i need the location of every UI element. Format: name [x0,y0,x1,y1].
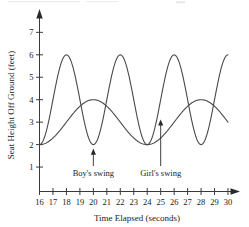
x-tick-label: 19 [76,197,85,207]
series-curves [40,55,229,145]
x-tick-label: 20 [89,197,98,207]
x-tick-label: 27 [183,197,192,207]
x-axis: 161718192021222324252627282930 [35,188,240,207]
x-tick-label: 18 [62,197,71,207]
x-tick-label: 26 [170,197,179,207]
x-axis-title: Time Elapsed (seconds) [94,213,180,223]
girls-swing-label: Girl's swing [140,168,182,178]
girls-swing-curve [40,100,229,145]
girls-swing-arrowhead [158,119,163,125]
y-tick-label: 3 [29,117,33,127]
x-tick-label: 17 [49,197,58,207]
x-axis-arrowhead [231,188,241,194]
y-axis-title: Seat Height Off Ground (feet) [6,51,16,159]
y-axis-arrowhead [36,9,42,19]
y-tick-label: 1 [29,162,33,172]
y-tick-label: 2 [29,140,33,150]
seat-height-line-chart: 1234567 161718192021222324252627282930 B… [0,0,249,227]
top-edge-artifact [8,1,185,3]
x-tick-label: 29 [210,197,219,207]
y-tick-label: 4 [29,95,34,105]
x-tick-label: 25 [156,197,165,207]
boys-swing-label: Boy's swing [73,168,115,178]
x-tick-label: 16 [35,197,44,207]
x-tick-label: 30 [224,197,233,207]
x-tick-label: 23 [130,197,139,207]
y-tick-label: 5 [29,72,33,82]
y-axis: 1234567 [29,9,43,192]
chart-figure: 1234567 161718192021222324252627282930 B… [0,0,249,227]
boys-swing-arrowhead [91,149,96,155]
x-tick-label: 28 [197,197,206,207]
x-tick-label: 24 [143,197,152,207]
y-tick-label: 7 [29,27,33,37]
y-tick-label: 6 [29,50,33,60]
x-tick-label: 22 [116,197,125,207]
x-tick-label: 21 [103,197,112,207]
